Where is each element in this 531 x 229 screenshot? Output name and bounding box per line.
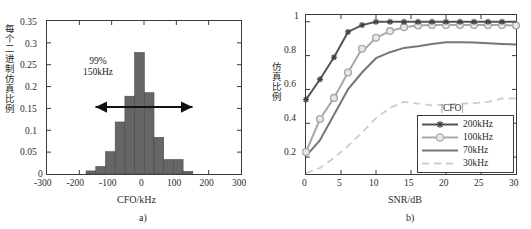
legend-item-200khz[interactable]: 200kHz — [421, 118, 509, 131]
panel-b-ytick-3: 0.8 — [284, 46, 296, 56]
panel-b-series-200khz-markers — [303, 19, 505, 103]
legend-sample-70khz — [421, 144, 459, 157]
panel-a-ytick-6: 0.05 — [20, 148, 37, 158]
legend-label-100khz: 100kHz — [459, 133, 493, 143]
panel-b-x-axis-title: SNR/dB — [388, 195, 422, 205]
panel-a-xtick-3: 0 — [139, 179, 144, 189]
panel-b-xtick-6: 30 — [509, 179, 519, 189]
legend-label-70khz: 70kHz — [459, 146, 488, 156]
panel-a-xtick-4: 100 — [167, 179, 181, 189]
panel-a-ytick-0: 0.35 — [20, 18, 37, 28]
legend-label-200khz: 200kHz — [459, 120, 493, 130]
panel-b-xtick-0: 0 — [302, 179, 307, 189]
panel-b-xtick-4: 20 — [439, 179, 449, 189]
panel-b-ytick-0: 0.2 — [284, 148, 296, 158]
panel-b-xtick-1: 5 — [337, 179, 342, 189]
legend-sample-100khz — [421, 131, 459, 144]
panel-b-xtick-2: 10 — [369, 179, 379, 189]
legend-item-70khz[interactable]: 70kHz — [421, 144, 509, 157]
legend-label-30khz: 30kHz — [459, 159, 488, 169]
panel-b-legend-title: |CFO| — [441, 104, 463, 114]
panel-b-legend[interactable]: 200kHz 100kHz 70kHz — [417, 115, 514, 173]
panel-a-y-axis-title: 每个二进制仿真比例 — [3, 24, 13, 172]
panel-a-histogram: 每个二进制仿真比例 0.35 0.3 0.25 0.2 0.15 0.1 0.0… — [0, 0, 265, 229]
panel-b-line-chart: 仿真比例 1 0.8 0.6 0.4 0.2 — [265, 0, 531, 229]
panel-a-subcaption: a) — [139, 213, 147, 223]
panel-a-xtick-2: -100 — [99, 179, 116, 189]
panel-b-ytick-2: 0.6 — [284, 80, 296, 90]
panel-b-xtick-5: 25 — [474, 179, 484, 189]
panel-a-xtick-6: 300 — [232, 179, 246, 189]
panel-a-ytick-1: 0.3 — [25, 40, 37, 50]
panel-a-xtick-1: -200 — [67, 179, 84, 189]
panel-b-series-200khz — [306, 22, 516, 100]
panel-a-annotation-line2: 150kHz — [68, 67, 128, 78]
figure-container: 每个二进制仿真比例 0.35 0.3 0.25 0.2 0.15 0.1 0.0… — [0, 0, 531, 229]
panel-b-ytick-1: 0.4 — [284, 114, 296, 124]
panel-a-ytick-4: 0.15 — [20, 105, 37, 115]
legend-sample-30khz — [421, 157, 459, 170]
legend-item-100khz[interactable]: 100kHz — [421, 131, 509, 144]
legend-sample-200khz — [421, 118, 459, 131]
legend-item-30khz[interactable]: 30kHz — [421, 157, 509, 170]
panel-a-ytick-2: 0.25 — [20, 61, 37, 71]
panel-a-ytick-5: 0.1 — [25, 127, 37, 137]
panel-a-annotation: 99% 150kHz — [68, 56, 128, 78]
panel-a-annotation-line1: 99% — [68, 56, 128, 67]
panel-b-ytick-4: 1 — [294, 12, 299, 22]
panel-a-x-axis-title: CFO/kHz — [117, 195, 156, 205]
panel-b-y-axis-title: 仿真比例 — [270, 62, 280, 126]
panel-a-svg — [47, 21, 241, 174]
panel-a-ytick-3: 0.2 — [25, 83, 37, 93]
panel-b-subcaption: b) — [406, 213, 414, 223]
panel-a-xtick-0: -300 — [34, 179, 51, 189]
panel-b-xtick-3: 15 — [404, 179, 414, 189]
panel-a-xtick-5: 200 — [200, 179, 214, 189]
panel-a-plot-area — [46, 20, 242, 175]
